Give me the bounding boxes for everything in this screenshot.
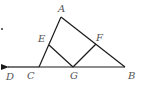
label-E: E [37, 33, 46, 44]
label-A: A [57, 3, 65, 14]
segment-FG [73, 44, 96, 67]
label-C: C [27, 70, 35, 81]
stray-dot [1, 28, 3, 30]
segment-EG [49, 45, 73, 67]
label-F: F [95, 32, 104, 43]
label-B: B [127, 70, 135, 81]
segment-AB [61, 17, 125, 67]
geometry-diagram: A B C D E F G [0, 0, 146, 86]
label-G: G [70, 70, 78, 81]
label-D: D [5, 71, 14, 82]
